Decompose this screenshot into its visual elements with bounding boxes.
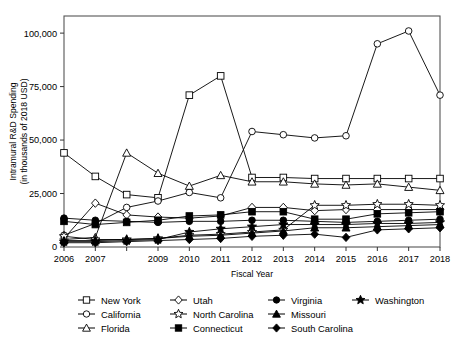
- y-tick-label: 75,000: [29, 82, 57, 92]
- legend-label: Virginia: [291, 295, 323, 306]
- data-point-open-circle: [311, 135, 318, 142]
- legend-label: Connecticut: [193, 323, 243, 334]
- legend-label: New York: [101, 295, 141, 306]
- data-point-open-circle: [374, 41, 381, 48]
- legend-label: Florida: [101, 323, 130, 334]
- y-tick-label: 50,000: [29, 135, 57, 145]
- x-tick-label: 2006: [54, 254, 74, 264]
- data-point-filled-square: [280, 208, 287, 215]
- data-point-open-square: [123, 191, 130, 198]
- x-tick-label: 2013: [273, 254, 293, 264]
- data-point-open-circle: [217, 195, 224, 202]
- data-point-open-square: [437, 175, 444, 182]
- data-point-filled-circle: [155, 219, 162, 226]
- legend-label: Washington: [375, 295, 424, 306]
- x-tick-label: 2012: [242, 254, 262, 264]
- x-tick-label: 2010: [179, 254, 199, 264]
- data-point-open-square: [186, 92, 193, 99]
- y-tick-label: 25,000: [29, 189, 57, 199]
- data-point-open-circle: [186, 189, 193, 196]
- chart-container: 025,00050,00075,000100,000 2006200720092…: [0, 0, 464, 344]
- data-point-open-circle: [405, 28, 412, 35]
- data-point-filled-square: [175, 325, 181, 331]
- x-tick-label: 2018: [430, 254, 450, 264]
- data-point-open-circle: [437, 92, 444, 99]
- data-point-filled-circle: [92, 217, 99, 224]
- data-point-open-square: [405, 175, 412, 182]
- legend-label: Utah: [193, 295, 213, 306]
- data-point-open-square: [217, 73, 224, 80]
- x-tick-label: 2017: [398, 254, 418, 264]
- data-point-filled-square: [217, 212, 224, 219]
- data-point-open-circle: [155, 198, 162, 205]
- data-point-open-circle: [343, 132, 350, 139]
- legend-label: Missouri: [291, 309, 326, 320]
- x-tick-label: 2009: [148, 254, 168, 264]
- legend-label: South Carolina: [291, 323, 354, 334]
- y-tick-label: 100,000: [24, 29, 57, 39]
- data-point-filled-square: [249, 208, 256, 215]
- x-axis-title: Fiscal Year: [231, 269, 273, 279]
- data-point-open-circle: [123, 204, 130, 211]
- data-point-open-square: [61, 150, 68, 157]
- x-tick-label: 2011: [211, 254, 231, 264]
- y-axis-title: Intramural R&D Spending: [8, 82, 18, 180]
- line-chart: 025,00050,00075,000100,000 2006200720092…: [0, 0, 464, 344]
- data-point-open-circle: [280, 131, 287, 138]
- data-point-open-square: [83, 297, 89, 303]
- data-point-filled-circle: [186, 218, 193, 225]
- x-tick-label: 2014: [304, 254, 324, 264]
- data-point-open-circle: [249, 128, 256, 135]
- data-point-filled-square: [405, 209, 412, 216]
- y-axis-title: (in thousands of 2018 USD): [19, 78, 29, 184]
- legend-label: California: [101, 309, 141, 320]
- x-tick-label: 2015: [336, 254, 356, 264]
- data-point-filled-circle: [61, 215, 68, 222]
- chart-background: [0, 0, 464, 344]
- data-point-filled-square: [374, 211, 381, 218]
- data-point-filled-circle: [123, 218, 130, 225]
- data-point-open-circle: [83, 311, 89, 317]
- data-point-filled-square: [437, 208, 444, 215]
- x-tick-label: 2007: [85, 254, 105, 264]
- x-tick-label: 2016: [367, 254, 387, 264]
- legend-label: North Carolina: [193, 309, 254, 320]
- data-point-open-square: [92, 173, 99, 180]
- data-point-filled-circle: [273, 297, 279, 303]
- y-tick-label: 0: [52, 242, 57, 252]
